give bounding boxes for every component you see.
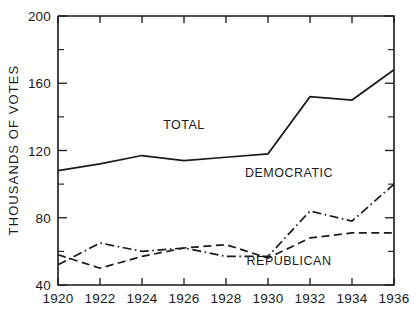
y-tick-label: 80 xyxy=(36,211,51,226)
x-tick-label: 1930 xyxy=(253,291,284,306)
series-label-republican: REPUBLICAN xyxy=(247,254,332,268)
x-tick-label: 1924 xyxy=(127,291,158,306)
series-label-total: TOTAL xyxy=(163,118,205,132)
y-tick-label: 40 xyxy=(36,278,51,293)
x-axis-ticks-top xyxy=(58,16,394,23)
series-line-total xyxy=(58,70,394,171)
y-axis-ticks-right xyxy=(385,16,394,285)
series-lines xyxy=(58,70,394,268)
series-line-republican xyxy=(58,233,394,268)
y-tick-label: 200 xyxy=(28,9,51,24)
series-label-democratic: DEMOCRATIC xyxy=(245,166,333,180)
series-annotations: TOTALDEMOCRATICREPUBLICAN xyxy=(163,118,333,268)
y-axis-title: THOUSANDS OF VOTES xyxy=(6,65,21,236)
x-tick-label: 1928 xyxy=(211,291,242,306)
chart-figure: 192019221924192619281930193219341936 408… xyxy=(0,0,418,323)
y-tick-label: 160 xyxy=(28,76,51,91)
x-tick-label: 1932 xyxy=(295,291,326,306)
series-line-democratic xyxy=(58,184,394,265)
votes-line-chart: 192019221924192619281930193219341936 408… xyxy=(0,0,418,323)
y-tick-label: 120 xyxy=(28,144,51,159)
y-axis-ticks xyxy=(58,16,67,285)
y-axis-tick-labels: 4080120160200 xyxy=(28,9,51,293)
y-axis-title-text: THOUSANDS OF VOTES xyxy=(6,65,21,236)
x-axis-tick-labels: 192019221924192619281930193219341936 xyxy=(43,291,410,306)
x-tick-label: 1934 xyxy=(337,291,368,306)
x-tick-label: 1922 xyxy=(85,291,116,306)
x-tick-label: 1920 xyxy=(43,291,74,306)
x-tick-label: 1936 xyxy=(379,291,410,306)
x-tick-label: 1926 xyxy=(169,291,200,306)
x-axis-ticks xyxy=(58,278,394,285)
